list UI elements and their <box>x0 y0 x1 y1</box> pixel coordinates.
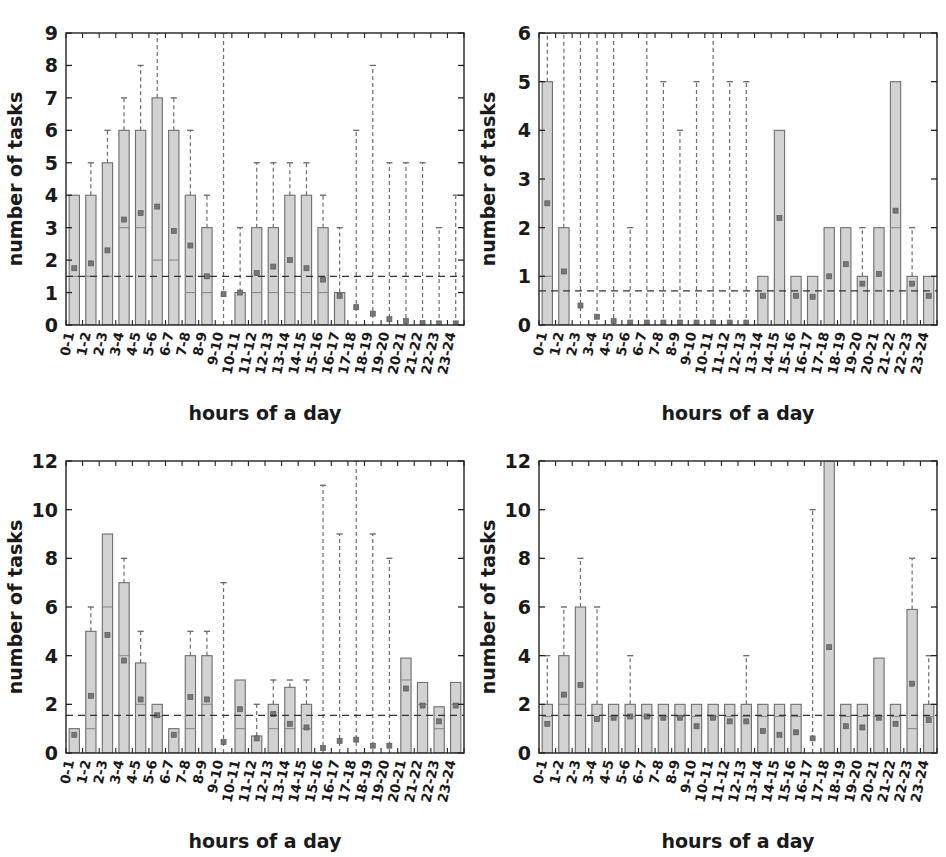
box-group <box>627 228 633 325</box>
y-tick-label: 6 <box>518 22 531 44</box>
box-group <box>907 558 917 753</box>
y-tick-label: 2 <box>518 693 531 715</box>
mean-marker <box>860 281 865 286</box>
mean-marker <box>578 303 583 308</box>
box-group <box>611 33 617 325</box>
box-rect <box>102 163 112 325</box>
mean-marker <box>860 725 865 730</box>
mean-marker <box>238 290 243 295</box>
mean-marker <box>122 217 127 222</box>
y-tick-label: 0 <box>45 314 58 336</box>
mean-marker <box>595 314 600 319</box>
y-tick-label: 4 <box>518 645 531 667</box>
mean-marker <box>777 732 782 737</box>
box-group <box>386 163 392 325</box>
mean-marker <box>72 266 77 271</box>
box-group <box>403 163 409 325</box>
mean-marker <box>545 201 550 206</box>
box-group <box>874 228 884 325</box>
box-group <box>169 729 179 753</box>
mean-marker <box>910 281 915 286</box>
mean-marker <box>304 266 309 271</box>
box-group <box>559 607 569 753</box>
box-rect <box>874 658 884 753</box>
mean-marker <box>221 740 226 745</box>
mean-marker <box>271 264 276 269</box>
y-tick-label: 1 <box>45 282 58 304</box>
box-group <box>758 704 768 753</box>
mean-marker <box>171 732 176 737</box>
box-rect <box>559 228 569 325</box>
y-tick-label: 6 <box>45 119 58 141</box>
box-rect <box>169 130 179 325</box>
box-group <box>791 704 801 753</box>
mean-marker <box>561 269 566 274</box>
box-group <box>86 607 96 753</box>
box-rect <box>185 656 195 753</box>
box-rect <box>625 704 635 753</box>
y-tick-label: 8 <box>45 54 58 76</box>
y-axis-label: number of tasks <box>477 520 499 694</box>
mean-marker <box>611 319 616 324</box>
mean-marker <box>321 746 326 751</box>
mean-marker <box>304 725 309 730</box>
box-group <box>268 163 278 325</box>
mean-marker <box>910 681 915 686</box>
mean-marker <box>105 632 110 637</box>
mean-marker <box>287 721 292 726</box>
mean-marker <box>88 261 93 266</box>
mean-marker <box>453 703 458 708</box>
y-tick-label: 9 <box>45 22 58 44</box>
mean-marker <box>595 716 600 721</box>
box-rect <box>592 704 602 753</box>
mean-marker <box>810 294 815 299</box>
mean-marker <box>926 718 931 723</box>
box-group <box>890 82 900 325</box>
box-group <box>220 33 226 325</box>
box-group <box>642 704 652 753</box>
box-group <box>337 534 343 753</box>
box-group <box>675 704 685 753</box>
y-tick-label: 2 <box>45 693 58 715</box>
box-rect <box>235 293 245 325</box>
box-group <box>434 707 444 753</box>
panel-top-left: 01234567890-11-22-33-44-55-66-77-88-99-1… <box>0 0 473 428</box>
mean-marker <box>661 715 666 720</box>
mean-marker <box>794 293 799 298</box>
x-axis-label: hours of a day <box>189 830 343 852</box>
box-group <box>453 195 459 326</box>
box-rect <box>791 704 801 753</box>
y-tick-label: 8 <box>45 547 58 569</box>
box-group <box>285 680 295 753</box>
box-rect <box>741 704 751 753</box>
box-group <box>691 704 701 753</box>
box-group <box>824 461 834 753</box>
box-rect <box>451 682 461 753</box>
y-tick-label: 12 <box>32 450 58 472</box>
box-rect <box>119 583 129 753</box>
box-group <box>774 704 784 753</box>
mean-marker <box>287 258 292 263</box>
x-axis-label: hours of a day <box>189 402 343 424</box>
y-tick-label: 0 <box>518 742 531 764</box>
box-group <box>594 33 600 325</box>
mean-marker <box>321 277 326 282</box>
plot-contents <box>69 461 461 753</box>
box-group <box>202 631 212 753</box>
box-rect <box>658 704 668 753</box>
box-group <box>135 631 145 753</box>
mean-marker <box>578 682 583 687</box>
y-tick-label: 10 <box>32 499 58 521</box>
x-axis-label: hours of a day <box>662 830 816 852</box>
mean-marker <box>204 697 209 702</box>
box-group <box>320 485 326 753</box>
box-rect <box>86 631 96 753</box>
box-group <box>575 558 585 753</box>
mean-marker <box>727 719 732 724</box>
box-group <box>758 276 768 325</box>
box-group <box>185 130 195 325</box>
mean-marker <box>403 319 408 324</box>
mean-marker <box>254 271 259 276</box>
y-tick-label: 0 <box>518 314 531 336</box>
y-tick-label: 4 <box>45 184 58 206</box>
